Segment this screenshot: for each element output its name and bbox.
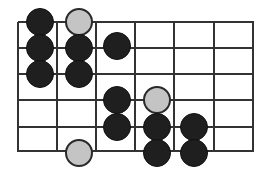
grid-line-vertical <box>252 22 254 152</box>
black-stone <box>180 139 208 167</box>
gray-stone <box>143 86 171 114</box>
black-stone <box>26 34 54 62</box>
gray-stone <box>65 139 93 167</box>
black-stone <box>65 60 93 88</box>
grid-line-vertical <box>17 22 19 152</box>
grid-line-horizontal <box>18 126 254 128</box>
grid-line-vertical <box>213 22 215 152</box>
grid-line-vertical <box>173 22 175 152</box>
grid-line-horizontal <box>18 99 254 101</box>
grid-line-vertical <box>134 22 136 152</box>
black-stone <box>143 139 171 167</box>
grid-line-vertical <box>56 22 58 152</box>
black-stone <box>103 32 131 60</box>
black-stone <box>103 113 131 141</box>
gray-stone <box>65 8 93 36</box>
black-stone <box>180 113 208 141</box>
black-stone <box>26 8 54 36</box>
grid-line-vertical <box>95 22 97 152</box>
black-stone <box>26 60 54 88</box>
black-stone <box>103 86 131 114</box>
black-stone <box>143 113 171 141</box>
grid-line-horizontal <box>18 150 254 152</box>
go-board <box>0 0 266 177</box>
black-stone <box>65 34 93 62</box>
